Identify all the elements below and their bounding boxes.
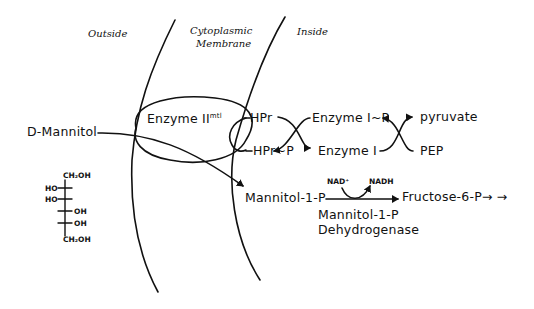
enzyme-ii-superscript: mtl: [210, 112, 222, 120]
structure-bottom-label: CH₂OH: [63, 236, 91, 244]
enzyme-i-p-label: Enzyme I~P: [312, 112, 389, 125]
mannitol-1-p-label: Mannitol-1-P: [245, 192, 326, 205]
continuation-arrows: → →: [482, 191, 508, 204]
structure-row-2: HO: [45, 196, 58, 204]
enzyme-ii-label: Enzyme IImtl: [147, 113, 222, 126]
enzyme-ii-oval: [135, 97, 252, 162]
enzyme-name-line2: Dehydrogenase: [318, 224, 419, 237]
d-mannitol-label: D-Mannitol: [27, 126, 97, 139]
hpr-label: HPr: [250, 112, 272, 125]
structure-row-4: OH: [74, 220, 87, 228]
nad-plus-label: NAD⁺: [327, 178, 349, 186]
enzyme-name-line1: Mannitol-1-P: [318, 209, 399, 222]
structure-row-1: HO: [45, 185, 58, 193]
inside-label: Inside: [297, 27, 328, 37]
mannitol-structure-bonds: [58, 180, 72, 236]
membrane-label-line1: Cytoplasmic: [190, 26, 252, 36]
hpr-p-label: HPr~P: [253, 145, 294, 158]
pyruvate-label: pyruvate: [420, 111, 478, 124]
outside-label: Outside: [88, 29, 127, 39]
nadh-label: NADH: [369, 178, 394, 186]
pep-label: PEP: [420, 145, 444, 158]
fructose-6-p-label: Fructose-6-P: [402, 191, 482, 204]
membrane-label-line2: Membrane: [196, 39, 251, 49]
structure-top-label: CH₂OH: [63, 172, 91, 180]
cofactor-curve: [342, 186, 370, 198]
structure-row-3: OH: [74, 208, 87, 216]
enzyme-i-label: Enzyme I: [318, 145, 377, 158]
